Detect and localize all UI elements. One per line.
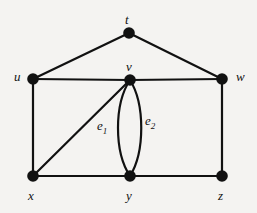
vertex-v <box>124 74 136 86</box>
vertex-label-x: x <box>28 189 34 202</box>
vertex-t <box>123 27 135 39</box>
edge-label-e2-subscript: 2 <box>151 121 156 131</box>
vertex-x <box>27 170 39 182</box>
graph-figure: t u v w x y z e1 e2 <box>0 0 257 213</box>
vertex-z <box>216 170 228 182</box>
edge-u-v <box>33 79 130 80</box>
edge-label-e1: e1 <box>97 119 107 136</box>
edge-label-e2: e2 <box>145 114 155 131</box>
edge-t-u <box>33 33 129 79</box>
edges-layer <box>33 33 222 176</box>
vertex-label-u: u <box>14 70 21 83</box>
vertex-label-y: y <box>126 189 132 202</box>
edge-label-e1-subscript: 1 <box>103 126 108 136</box>
vertex-y <box>124 170 136 182</box>
vertex-w <box>216 73 228 85</box>
edge-e2-v-y <box>130 80 141 176</box>
vertex-label-z: z <box>218 189 223 202</box>
vertex-u <box>27 73 39 85</box>
vertices-layer <box>27 27 228 182</box>
graph-canvas <box>0 0 257 213</box>
vertex-label-t: t <box>125 13 129 26</box>
edge-t-w <box>129 33 222 79</box>
vertex-label-w: w <box>236 70 245 83</box>
edge-v-w <box>130 79 222 80</box>
vertex-label-v: v <box>126 60 132 73</box>
edge-x-v <box>33 80 130 176</box>
edge-e1-v-y <box>118 80 130 176</box>
